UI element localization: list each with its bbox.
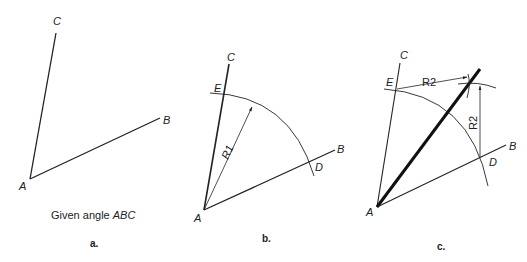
point-label-e: E [214,82,222,94]
point-label-b: B [163,114,170,126]
ray-ac [30,33,56,179]
arc-r2-side [458,83,496,88]
radius-label-r2-side: R2 [467,116,479,130]
ray-ab [30,118,160,179]
radius-label-r2-top: R2 [422,76,436,88]
point-label-a: A [365,206,373,218]
panel-label-a: a. [90,238,99,249]
point-label-a: A [18,180,26,192]
panel-a: C B A Given angle ABC a. [18,15,170,249]
angle-bisection-diagram: C B A Given angle ABC a. R1 C E D B A b.… [0,0,527,262]
point-label-b: B [509,140,516,152]
arc-r1 [384,89,488,186]
point-label-e: E [386,76,394,88]
point-label-d: D [489,156,497,168]
point-label-a: A [193,212,201,224]
radius-label-r1: R1 [219,143,236,161]
panel-b: R1 C E D B A b. [193,51,344,244]
point-label-c: C [53,15,61,27]
caption: Given angle ABC [51,209,135,221]
ray-ab [377,145,506,207]
panel-label-b: b. [262,233,271,244]
point-label-c: C [400,49,408,61]
point-label-b: B [337,143,344,155]
panel-c: R2 R2 C E D B A c. [365,49,516,252]
point-label-d: D [315,161,323,173]
panel-label-c: c. [437,241,446,252]
point-label-c: C [227,51,235,63]
